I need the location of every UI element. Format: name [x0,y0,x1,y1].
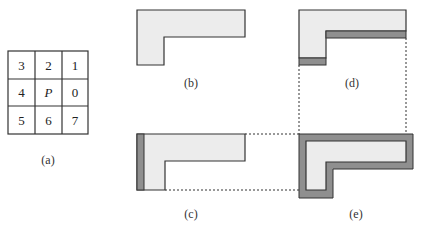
grid-cell: 3 [18,58,25,73]
caption-a: (a) [41,153,54,167]
panel-b-shape [137,10,245,65]
grid-cell: 5 [18,113,25,128]
grid-cell: 1 [72,58,79,73]
border-band-bottom-left [299,58,326,65]
caption-c: (c) [184,207,197,221]
l-shape-region [137,134,245,190]
panel-e-shape [299,134,413,198]
diagram-canvas: 3 2 1 4 P 0 5 6 7 (a) (b) (d) (c) (e) [0,0,422,231]
grid-cell: 7 [72,113,79,128]
grid-cell: 4 [18,85,25,100]
grid-cell: 6 [45,113,52,128]
border-band-bottom-right [326,31,406,38]
panel-d-shape [299,10,406,65]
grid-cell: 0 [72,85,79,100]
l-shape-region [137,10,245,65]
grid-cell-center: P [44,85,53,100]
grid-cell: 2 [45,58,52,73]
panel-c-shape [137,134,245,190]
caption-b: (b) [184,76,198,90]
caption-e: (e) [349,207,362,221]
border-band-left [137,134,144,190]
neighborhood-grid: 3 2 1 4 P 0 5 6 7 [8,51,88,134]
caption-d: (d) [345,76,359,90]
